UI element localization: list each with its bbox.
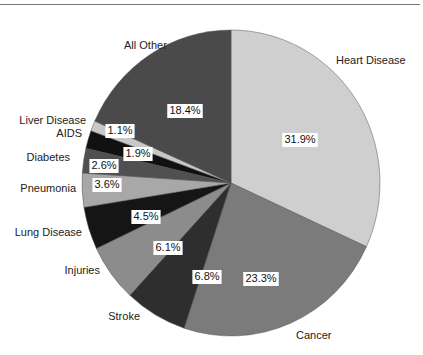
percent-label-all-other: 18.4%: [167, 104, 203, 118]
category-label-stroke: Stroke: [108, 310, 140, 322]
svg-text:1.9%: 1.9%: [125, 147, 150, 159]
svg-text:6.1%: 6.1%: [155, 241, 180, 253]
percent-label-aids: 1.9%: [123, 147, 152, 161]
percent-label-stroke: 6.8%: [192, 270, 221, 284]
pie-chart: 31.9%23.3%6.8%6.1%4.5%3.6%2.6%1.9%1.1%18…: [0, 0, 423, 355]
category-label-cancer: Cancer: [296, 329, 332, 341]
category-label-heart-disease: Heart Disease: [336, 54, 406, 66]
svg-text:18.4%: 18.4%: [169, 104, 200, 116]
svg-text:4.5%: 4.5%: [133, 210, 158, 222]
category-label-diabetes: Diabetes: [27, 151, 71, 163]
category-label-liver-disease: Liver Disease: [19, 114, 86, 126]
percent-label-heart-disease: 31.9%: [282, 133, 318, 147]
svg-text:31.9%: 31.9%: [284, 133, 315, 145]
category-label-aids: AIDS: [56, 127, 82, 139]
percent-label-liver-disease: 1.1%: [105, 124, 134, 138]
category-label-lung-disease: Lung Disease: [15, 226, 82, 238]
category-label-pneumonia: Pneumonia: [20, 182, 77, 194]
svg-text:23.3%: 23.3%: [245, 272, 276, 284]
percent-label-lung-disease: 4.5%: [131, 210, 160, 224]
percent-label-injuries: 6.1%: [153, 241, 182, 255]
category-label-all-other: All Other: [124, 39, 167, 51]
category-label-injuries: Injuries: [65, 264, 101, 276]
percent-label-cancer: 23.3%: [243, 272, 279, 286]
svg-text:3.6%: 3.6%: [94, 178, 119, 190]
percent-label-diabetes: 2.6%: [89, 159, 118, 173]
svg-text:2.6%: 2.6%: [91, 159, 116, 171]
svg-text:1.1%: 1.1%: [107, 124, 132, 136]
percent-label-pneumonia: 3.6%: [92, 178, 121, 192]
svg-text:6.8%: 6.8%: [194, 270, 219, 282]
pie-slices: [82, 30, 380, 336]
